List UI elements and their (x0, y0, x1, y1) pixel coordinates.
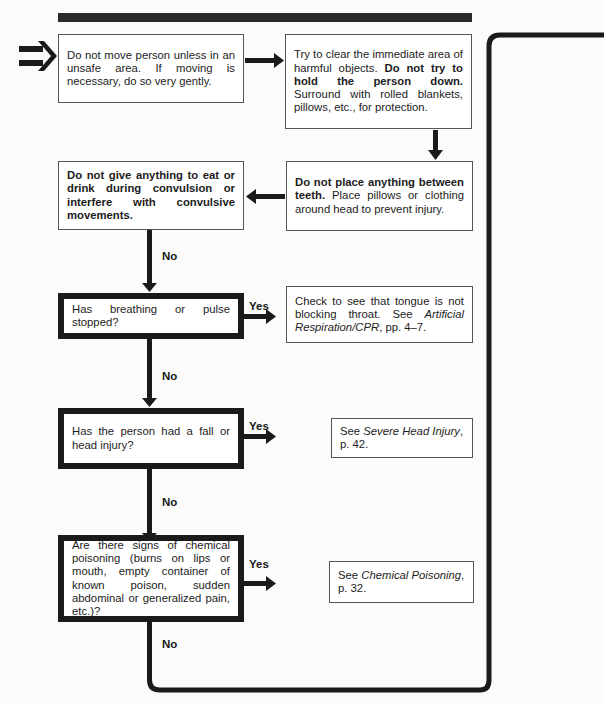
answer-a2-text: See (340, 425, 363, 437)
node-n2-text-post: Surround with rolled blankets, pillows, … (294, 88, 463, 113)
label-no-3: No (162, 496, 177, 508)
answer-a2: See Severe Head Injury, p. 42. (331, 418, 473, 458)
answer-a3-ref: Chemical Poisoning (361, 569, 461, 581)
node-n3: Do not place anything between teeth. Pla… (286, 161, 473, 231)
node-n2: Try to clear the immediate area of harmf… (285, 34, 472, 129)
label-no-1: No (162, 250, 177, 262)
question-q1-text: Has breathing or pulse stopped? (72, 303, 230, 330)
arrow-q3-a3 (242, 576, 276, 591)
node-n4-bold: Do not give anything to eat or drink dur… (67, 169, 235, 221)
label-yes-1: Yes (249, 300, 269, 312)
question-q3-text: Are there signs of chemical poisoning (b… (72, 539, 230, 619)
arrow-q1-q2 (142, 338, 157, 407)
label-yes-3: Yes (249, 558, 269, 570)
arrow-n4-q1 (142, 229, 157, 292)
arrow-n1-n2 (245, 53, 284, 68)
arrow-q2-q3 (142, 468, 157, 542)
double-arrow-right-icon (19, 41, 57, 71)
answer-a3-text: See (338, 569, 361, 581)
answer-a1-pages: , pp. 4–7. (379, 321, 426, 333)
question-q2-text: Has the person had a fall or head injury… (72, 425, 230, 452)
arrow-n3-n4 (246, 189, 285, 204)
label-no-4: No (162, 638, 177, 650)
node-n4: Do not give anything to eat or drink dur… (58, 161, 244, 230)
arrow-n2-n3 (428, 130, 443, 160)
node-n1: Do not move person unless in an unsafe a… (58, 34, 244, 103)
label-no-2: No (162, 370, 177, 382)
question-q1: Has breathing or pulse stopped? (58, 293, 244, 339)
flowchart-page: Do not move person unless in an unsafe a… (0, 0, 604, 703)
answer-a1: Check to see that tongue is not blocking… (286, 286, 473, 343)
label-yes-2: Yes (249, 420, 269, 432)
question-q3: Are there signs of chemical poisoning (b… (58, 535, 244, 622)
answer-a3: See Chemical Poisoning, p. 32. (329, 561, 474, 603)
node-n1-text: Do not move person unless in an unsafe a… (67, 49, 235, 89)
question-q2: Has the person had a fall or head injury… (58, 408, 244, 469)
answer-a2-ref: Severe Head Injury (363, 425, 460, 437)
